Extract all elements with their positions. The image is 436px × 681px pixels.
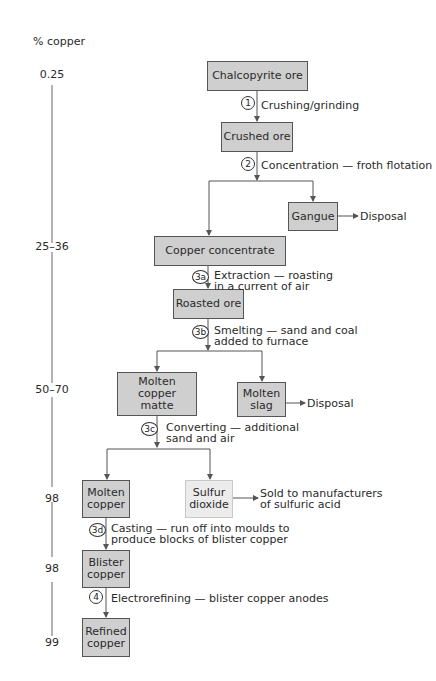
node-label: Roasted ore [176,298,242,310]
node-refined-copper: Refined copper [82,618,130,657]
node-label: Gangue [292,211,335,223]
node-sulfur-dioxide: Sulfur dioxide [185,480,233,518]
node-roasted-ore: Roasted ore [173,289,244,319]
node-chalcopyrite-ore: Chalcopyrite ore [207,61,308,91]
step-3d-text-line2: produce blocks of blister copper [111,534,288,545]
node-label-line2: matte [141,400,174,412]
step-3b-marker: 3b [192,325,209,339]
node-copper-concentrate: Copper concentrate [154,236,286,266]
step-3a-text-line2: in a current of air [214,281,309,292]
step-2-marker: 2 [241,157,255,171]
node-crushed-ore: Crushed ore [221,122,293,152]
gangue-destination: Disposal [360,211,407,222]
node-label-line2: copper [87,569,125,581]
axis-title: % copper [33,36,85,48]
step-3c-text-line2: sand and air [166,433,234,444]
step-3b-text-line2: added to furnace [214,336,308,347]
step-4-marker: 4 [89,590,103,604]
slag-destination: Disposal [307,398,354,409]
step-3a-marker: 3a [192,270,209,284]
node-label-line1: Refined [85,626,127,638]
node-label-line2: copper [87,499,125,511]
node-molten-slag: Molten slag [237,382,286,417]
step-2-text: Concentration — froth flotation [261,160,432,171]
copper-level-concentrate: 25–36 [32,241,72,253]
step-3d-marker: 3d [89,523,106,537]
node-label-line2: slag [250,400,273,412]
node-blister-copper: Blister copper [82,550,130,588]
node-molten-copper: Molten copper [82,480,130,518]
step-1-text: Crushing/grinding [261,100,359,111]
step-4-text: Electrorefining — blister copper anodes [111,593,328,604]
node-molten-copper-matte: Molten copper matte [117,372,197,416]
copper-level-molten: 98 [32,493,72,505]
copper-level-matte: 50–70 [32,384,72,396]
node-label: Crushed ore [224,131,291,143]
node-gangue: Gangue [288,202,338,231]
step-3c-marker: 3c [141,422,158,436]
node-label-line1: Molten copper [118,376,196,400]
node-label-line2: copper [87,638,125,650]
node-label-line2: dioxide [189,499,229,511]
node-label: Chalcopyrite ore [212,70,303,82]
so2-destination-line2: of sulfuric acid [260,499,341,510]
copper-level-ore: 0.25 [32,69,72,81]
copper-level-blister: 98 [32,563,72,575]
node-label-line1: Molten [243,388,280,400]
copper-level-refined: 99 [32,637,72,649]
node-label: Copper concentrate [165,245,274,257]
step-1-marker: 1 [241,96,255,110]
